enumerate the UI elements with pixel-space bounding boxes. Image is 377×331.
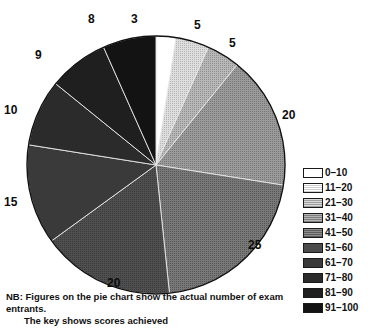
legend-swatch [303,273,323,283]
slice-label-51-60: 20 [107,277,121,289]
legend-label: 41–50 [325,228,353,238]
caption-line-2: The key shows scores achieved [6,315,298,327]
pie-chart-svg [26,35,286,295]
legend-swatch [303,228,323,238]
slice-label-61-70: 15 [4,196,18,208]
legend-swatch [303,243,323,253]
legend-label: 91–100 [325,303,358,313]
legend-swatch [303,303,323,313]
slice-label-11-20: 5 [194,19,201,31]
slice-label-81-90: 9 [35,49,42,61]
legend-label: 31–40 [325,213,353,223]
slice-label-41-50: 25 [248,239,262,251]
legend-label: 51–60 [325,243,353,253]
legend-swatch [303,213,323,223]
legend-item[interactable]: 61–70 [303,256,377,270]
caption-line-1: NB: Figures on the pie chart show the ac… [6,291,298,315]
slice-label-71-80: 10 [4,104,18,116]
legend-swatch [303,288,323,298]
legend-item[interactable]: 41–50 [303,226,377,240]
pie-slice [156,165,283,293]
legend-item[interactable]: 81–90 [303,286,377,300]
legend-swatch [303,183,323,193]
slice-label-0-10: 3 [131,13,138,25]
slice-label-31-40: 20 [282,109,296,121]
pie-slice-group [27,36,285,294]
slice-label-91-100: 8 [88,13,95,25]
legend-swatch [303,168,323,178]
legend-item[interactable]: 71–80 [303,271,377,285]
legend-item[interactable]: 11–20 [303,181,377,195]
legend-swatch [303,198,323,208]
legend-swatch [303,258,323,268]
legend-item[interactable]: 91–100 [303,301,377,315]
legend-item[interactable]: 31–40 [303,211,377,225]
legend-label: 0–10 [325,168,347,178]
legend-item[interactable]: 51–60 [303,241,377,255]
legend-label: 71–80 [325,273,353,283]
legend-label: 61–70 [325,258,353,268]
legend-label: 11–20 [325,183,352,193]
pie-chart-figure: 3 5 5 20 25 20 15 10 9 8 0–1011–2021–303… [0,0,377,331]
pie-chart: 3 5 5 20 25 20 15 10 9 8 [26,35,286,295]
legend-item[interactable]: 0–10 [303,166,377,180]
legend-label: 21–30 [325,198,353,208]
chart-legend: 0–1011–2021–3031–4041–5051–6061–7071–808… [303,166,377,316]
slice-label-21-30: 5 [229,37,236,49]
legend-label: 81–90 [325,288,353,298]
chart-caption: NB: Figures on the pie chart show the ac… [6,291,298,327]
legend-item[interactable]: 21–30 [303,196,377,210]
